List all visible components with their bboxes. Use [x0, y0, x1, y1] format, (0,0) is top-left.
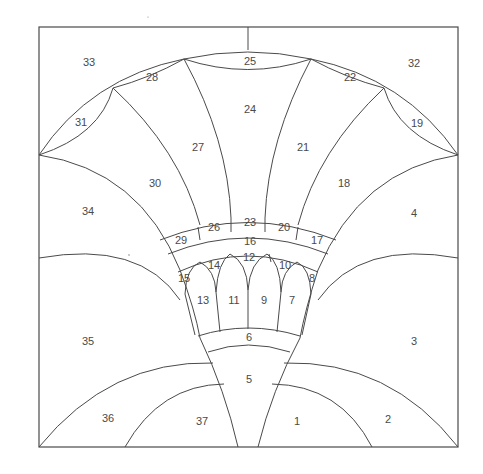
label-piece-5: 5	[246, 373, 252, 385]
label-piece-21: 21	[297, 141, 309, 153]
stem-9-7	[277, 292, 281, 332]
label-piece-35: 35	[82, 335, 94, 347]
arc-36-37	[125, 384, 224, 447]
arc-35-36	[39, 363, 213, 447]
label-piece-22: 22	[344, 71, 356, 83]
stem-13-11	[216, 292, 220, 332]
band-divider-20-17	[296, 227, 298, 240]
arc-3-4	[318, 254, 458, 300]
rib-21-24	[265, 59, 311, 218]
label-piece-7: 7	[289, 294, 295, 306]
label-piece-24: 24	[244, 103, 256, 115]
rib-18-21	[298, 88, 384, 225]
label-piece-9: 9	[261, 294, 267, 306]
stained-glass-pattern: 1 2 3 4 5 6 7 8 9 10 11 12 13 14 15 16 1…	[0, 0, 483, 474]
label-piece-29: 29	[175, 234, 187, 246]
label-piece-6: 6	[246, 331, 252, 343]
label-piece-33: 33	[83, 56, 95, 68]
label-piece-36: 36	[102, 412, 114, 424]
label-piece-17: 17	[311, 234, 323, 246]
band-divider-29-26	[198, 227, 200, 240]
arc-34-35	[39, 254, 180, 300]
label-piece-27: 27	[192, 141, 204, 153]
label-piece-20: 20	[278, 221, 290, 233]
label-piece-12: 12	[243, 251, 255, 263]
label-piece-13: 13	[197, 294, 209, 306]
label-piece-14: 14	[208, 259, 220, 271]
scan-speck	[147, 16, 148, 17]
label-piece-3: 3	[411, 335, 417, 347]
label-piece-1: 1	[294, 415, 300, 427]
label-piece-32: 32	[408, 57, 420, 69]
label-piece-8: 8	[309, 272, 315, 284]
label-piece-19: 19	[411, 117, 423, 129]
label-piece-31: 31	[75, 116, 87, 128]
label-piece-25: 25	[244, 55, 256, 67]
label-piece-26: 26	[208, 221, 220, 233]
arc-2-3	[284, 363, 458, 447]
label-piece-11: 11	[228, 294, 239, 306]
arc-1-2	[272, 384, 372, 447]
flower-left-side	[39, 155, 200, 338]
label-piece-10: 10	[279, 259, 291, 271]
stem-7-right	[302, 294, 311, 335]
label-piece-28: 28	[146, 71, 158, 83]
rib-27-30	[113, 88, 200, 225]
rib-24-27	[184, 59, 231, 218]
label-piece-4: 4	[411, 207, 417, 219]
label-piece-15: 15	[178, 272, 190, 284]
band-6-bottom	[208, 345, 290, 352]
label-piece-34: 34	[82, 205, 94, 217]
label-piece-37: 37	[196, 415, 208, 427]
label-piece-2: 2	[385, 413, 391, 425]
flower-right-side	[300, 155, 458, 338]
vase-right-side	[258, 338, 300, 447]
vase-left-side	[200, 338, 238, 447]
label-piece-16: 16	[244, 235, 256, 247]
label-piece-23: 23	[244, 216, 256, 228]
scan-speck	[128, 254, 130, 256]
label-piece-18: 18	[338, 177, 350, 189]
label-piece-30: 30	[149, 177, 161, 189]
